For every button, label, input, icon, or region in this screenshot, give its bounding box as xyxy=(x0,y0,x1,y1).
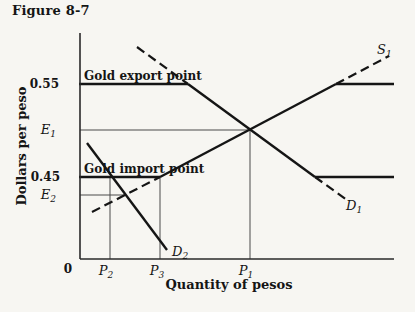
tick-e1: E1 xyxy=(40,122,56,139)
tick-0-45: 0.45 xyxy=(31,170,60,184)
figure-8-7: Figure 8-7 Gold export pointGold import … xyxy=(0,0,415,312)
d2-label: D2 xyxy=(171,244,188,261)
tick-p2: P2 xyxy=(98,263,114,280)
s1-dashed-upper xyxy=(336,56,389,84)
d2-curve xyxy=(87,143,167,250)
x-axis-label: Quantity of pesos xyxy=(165,277,292,292)
plot-svg: Gold export pointGold import point0.550.… xyxy=(0,0,415,312)
tick-0-55: 0.55 xyxy=(30,77,59,91)
gold-export-label: Gold export point xyxy=(84,69,202,83)
gold-import-label: Gold import point xyxy=(84,162,205,176)
tick-p3: P3 xyxy=(149,263,165,280)
d1-dashed-lower xyxy=(315,177,347,200)
y-axis-label: Dollars per peso xyxy=(14,86,29,205)
s1-label: S1 xyxy=(377,42,392,59)
tick-origin: 0 xyxy=(64,262,72,276)
d1-label: D1 xyxy=(345,198,362,215)
tick-e2: E2 xyxy=(40,187,57,204)
